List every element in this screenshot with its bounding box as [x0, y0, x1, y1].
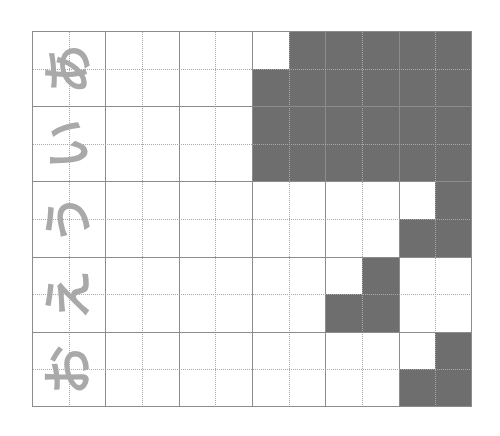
- practice-character: う: [31, 182, 106, 255]
- writing-practice-grid: あいうえお: [32, 31, 472, 407]
- practice-character: あ: [31, 32, 106, 105]
- practice-character: い: [31, 107, 106, 180]
- practice-character: お: [31, 333, 106, 406]
- practice-character: え: [31, 258, 106, 331]
